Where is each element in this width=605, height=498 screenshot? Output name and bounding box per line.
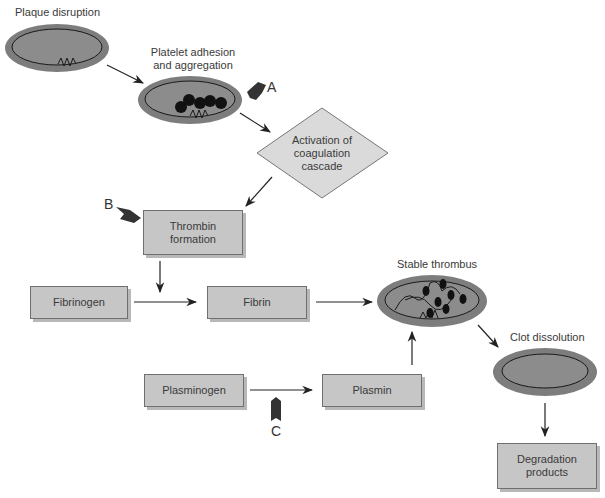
label-coagulation-line2: coagulation [272, 147, 372, 160]
label-platelet-line1: Platelet adhesion [148, 46, 238, 59]
platelet-icon [204, 95, 216, 107]
platelet-icon [435, 297, 442, 307]
fibrinogen-box: Fibrinogen [30, 286, 128, 319]
label-degradation-line2: products [517, 466, 577, 479]
platelet-icon [443, 304, 450, 314]
marker-c-chevron-icon [271, 397, 281, 421]
platelet-icon [460, 294, 467, 304]
arrow-coagulation-to-thrombin [246, 177, 272, 206]
arrow-thrombus-to-dissolution [478, 325, 498, 347]
marker-c-label: C [271, 423, 281, 439]
label-coagulation: Activation of coagulation cascade [272, 134, 372, 173]
label-degradation-line1: Degradation [517, 453, 577, 466]
marker-b-label: B [104, 196, 113, 212]
label-platelet-line2: and aggregation [148, 59, 238, 72]
label-thrombin-line2: formation [170, 233, 216, 246]
clot-dissolution-ellipse [493, 348, 597, 396]
degradation-products-box: Degradation products [497, 443, 597, 489]
platelet-icon [215, 97, 227, 109]
platelet-icon [183, 94, 195, 106]
marker-a-chevron-icon [247, 82, 266, 100]
platelet-icon [194, 97, 206, 109]
stable-thrombus-ellipse [377, 275, 487, 327]
label-coagulation-line1: Activation of [272, 134, 372, 147]
label-thrombin-line1: Thrombin [170, 220, 216, 233]
plasmin-box: Plasmin [322, 374, 422, 407]
label-clot-dissolution: Clot dissolution [510, 331, 585, 344]
label-plaque-disruption: Plaque disruption [15, 6, 100, 19]
platelet-icon [427, 308, 434, 318]
marker-a-label: A [267, 79, 276, 95]
platelet-ellipse [138, 76, 242, 124]
arrow-plaque-to-platelet [107, 65, 143, 83]
marker-b-chevron-icon [116, 207, 141, 223]
label-coagulation-line3: cascade [272, 160, 372, 173]
arrow-platelet-to-coagulation [240, 113, 270, 132]
platelet-icon [440, 279, 447, 289]
thrombin-formation-box: Thrombin formation [143, 210, 243, 255]
platelet-icon [423, 286, 430, 296]
plaque-ellipse [5, 24, 109, 72]
plasminogen-box: Plasminogen [144, 374, 244, 407]
platelet-icon [448, 290, 455, 300]
diagram-canvas [0, 0, 605, 498]
fibrin-box: Fibrin [207, 286, 307, 319]
label-platelet-adhesion: Platelet adhesion and aggregation [148, 46, 238, 72]
label-stable-thrombus: Stable thrombus [397, 258, 477, 271]
